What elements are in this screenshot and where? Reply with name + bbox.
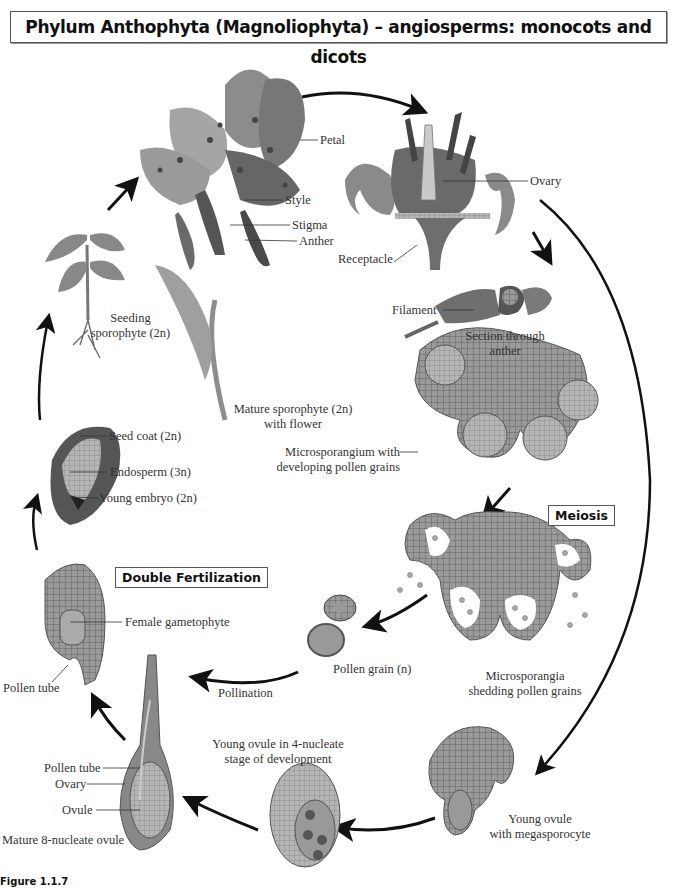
label-endosperm: Endosperm (3n)	[110, 465, 191, 480]
label-stigma: Stigma	[292, 218, 327, 233]
mature-sporophyte-flower	[140, 69, 305, 420]
label-anther: Anther	[299, 234, 334, 249]
label-section-anther-line1: Section through	[455, 329, 555, 344]
double-fertilization-box: Double Fertilization	[115, 567, 268, 588]
label-microsporangia-shedding: Microsporangia shedding pollen grains	[465, 669, 585, 699]
label-receptacle: Receptacle	[338, 252, 393, 267]
pollen-grains	[308, 595, 356, 656]
young-ovule-4-nucleate	[270, 763, 340, 867]
label-microsporangium-line2: developing pollen grains	[270, 460, 400, 475]
label-ovary-pistil: Ovary	[55, 777, 86, 792]
label-mature-sporophyte-line1: Mature sporophyte (2n)	[228, 402, 358, 417]
pistil-mature-ovule	[120, 655, 173, 850]
label-petal: Petal	[320, 133, 345, 148]
label-seed-coat: Seed coat (2n)	[109, 429, 181, 444]
label-ovary-flower: Ovary	[530, 174, 561, 189]
label-mature-8-nucleate: Mature 8-nucleate ovule	[2, 833, 124, 848]
label-mature-sporophyte: Mature sporophyte (2n) with flower	[228, 402, 358, 432]
label-young-ovule-4-line1: Young ovule in 4-nucleate	[198, 737, 358, 752]
label-section-anther-line2: anther	[455, 344, 555, 359]
ovule-double-fertilization	[45, 564, 105, 685]
label-young-ovule-mega-line2: with megasporocyte	[485, 827, 595, 842]
label-young-ovule-4-line2: stage of development	[198, 752, 358, 767]
label-seedling-line1: Seeding	[88, 311, 173, 326]
label-young-ovule-mega-line1: Young ovule	[485, 812, 595, 827]
label-pollen-tube-ovule: Pollen tube	[44, 761, 101, 776]
figure-caption: Figure 1.1.7	[0, 876, 68, 887]
label-female-gametophyte: Female gametophyte	[125, 615, 229, 630]
label-microsporangium-line1: Microsporangium with	[270, 445, 400, 460]
label-young-embryo: Young embryo (2n)	[99, 491, 197, 506]
label-seedling: Seeding sporophyte (2n)	[88, 311, 173, 341]
label-microsporangia-line2: shedding pollen grains	[465, 684, 585, 699]
label-pollen-grain: Pollen grain (n)	[333, 662, 411, 677]
label-young-ovule-megasporocyte: Young ovule with megasporocyte	[485, 812, 595, 842]
label-seedling-line2: sporophyte (2n)	[88, 326, 173, 341]
label-microsporangium: Microsporangium with developing pollen g…	[270, 445, 400, 475]
label-mature-sporophyte-line2: with flower	[228, 417, 358, 432]
label-young-ovule-4-nucleate: Young ovule in 4-nucleate stage of devel…	[198, 737, 358, 767]
label-style: Style	[285, 193, 311, 208]
label-filament: Filament	[392, 303, 436, 318]
meiosis-box: Meiosis	[548, 505, 615, 526]
flower-cross-section	[345, 112, 515, 270]
label-pollen-tube: Pollen tube	[3, 681, 60, 696]
label-pollination: Pollination	[218, 686, 273, 701]
label-ovule: Ovule	[62, 803, 93, 818]
label-microsporangia-line1: Microsporangia	[465, 669, 585, 684]
label-section-anther: Section through anther	[455, 329, 555, 359]
microsporangia-shedding	[398, 512, 591, 640]
